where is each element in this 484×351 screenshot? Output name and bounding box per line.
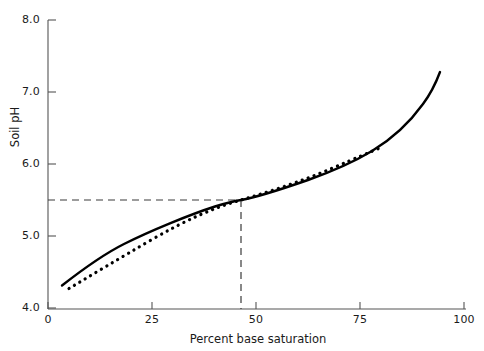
- soil-ph-chart-figure: 8.0 7.0 6.0 5.0 4.0 0 25 50 75 100 Soil …: [0, 0, 484, 351]
- x-tick-label-50: 50: [236, 313, 276, 326]
- x-axis-title: Percent base saturation: [48, 332, 468, 346]
- chart-plot-area: [0, 0, 484, 351]
- y-tick-label-8: 8.0: [8, 13, 40, 26]
- soil-ph-curve-solid: [62, 72, 440, 286]
- x-tick-label-75: 75: [340, 313, 380, 326]
- x-tick-label-0: 0: [28, 313, 68, 326]
- x-tick-label-25: 25: [132, 313, 172, 326]
- x-axis-ticks: [48, 302, 464, 309]
- y-axis-ticks: [48, 20, 56, 308]
- x-tick-label-100: 100: [444, 313, 484, 326]
- y-tick-label-5: 5.0: [8, 229, 40, 242]
- y-axis-title: Soil pH: [8, 92, 22, 162]
